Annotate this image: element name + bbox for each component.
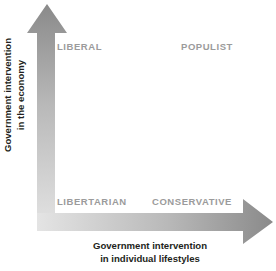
- x-axis-label-line2: in individual lifestyles: [50, 253, 250, 266]
- political-compass-diagram: LIBERAL POPULIST LIBERTARIAN CONSERVATIV…: [0, 0, 276, 271]
- x-axis-label-line1: Government intervention: [50, 240, 250, 253]
- axes-arrows-graphic: [0, 0, 276, 271]
- y-axis-label-line2: in the economy: [15, 20, 28, 170]
- quadrant-label-populist: POPULIST: [181, 42, 233, 52]
- quadrant-label-liberal: LIBERAL: [57, 42, 102, 52]
- quadrant-label-libertarian: LIBERTARIAN: [57, 197, 127, 207]
- y-axis-label: Government intervention in the economy: [2, 20, 28, 170]
- y-axis-label-line1: Government intervention: [2, 20, 15, 170]
- quadrant-label-conservative: CONSERVATIVE: [152, 197, 232, 207]
- x-axis-label: Government intervention in individual li…: [50, 240, 250, 265]
